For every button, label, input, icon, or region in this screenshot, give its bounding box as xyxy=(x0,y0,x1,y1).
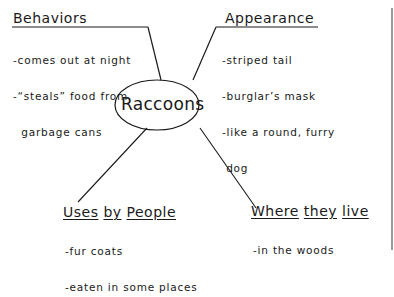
list-item: -“steals” food from xyxy=(13,90,131,102)
list-item: -like a round, furry xyxy=(222,126,335,138)
list-item: -burglar’s mask xyxy=(222,90,335,102)
list-item: -striped tail xyxy=(222,54,335,66)
list-item: -fur coats xyxy=(65,245,198,257)
branch-title-where-they-live: Where they live xyxy=(251,203,369,219)
branch-items-behaviors: -comes out at night -“steals” food from … xyxy=(13,30,131,150)
center-topic: Raccoons xyxy=(121,94,204,114)
branch-title-uses-by-people: Uses by People xyxy=(63,204,176,220)
list-item: -eaten in some places xyxy=(65,281,198,293)
list-item: -in the woods xyxy=(253,244,334,256)
list-item: garbage cans xyxy=(13,126,131,138)
branch-items-uses-by-people: -fur coats -eaten in some places xyxy=(65,221,198,297)
branch-title-behaviors: Behaviors xyxy=(13,10,87,26)
branch-title-appearance: Appearance xyxy=(225,10,314,26)
list-item: -comes out at night xyxy=(13,54,131,66)
list-item: dog xyxy=(222,162,335,174)
branch-items-appearance: -striped tail -burglar’s mask -like a ro… xyxy=(222,30,335,186)
branch-items-where-they-live: -in the woods xyxy=(253,220,334,268)
